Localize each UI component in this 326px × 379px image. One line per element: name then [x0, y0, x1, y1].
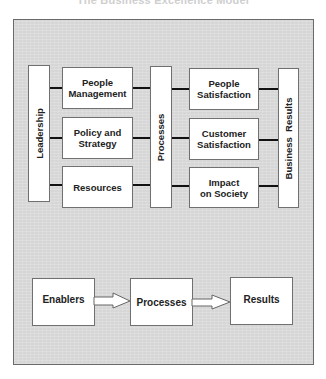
enabler-label-line2: Strategy: [74, 138, 122, 149]
result-label-line1: Customer: [197, 128, 251, 139]
connector-line: [172, 137, 189, 139]
result-label-line2: Satisfaction: [197, 89, 251, 100]
connector-line: [50, 184, 62, 186]
arrow-right-icon: [94, 293, 131, 309]
arrow-right-icon: [192, 295, 231, 311]
flow-label-enablers: Enablers: [42, 294, 84, 305]
flow-box-processes: Processes: [130, 278, 193, 326]
enabler-label-line2: Management: [68, 88, 126, 99]
connector-line: [133, 137, 150, 139]
result-box-customer-satisfaction: Customer Satisfaction: [189, 118, 259, 160]
business-results-label: Business Results: [283, 97, 294, 179]
flow-box-enablers: Enablers: [32, 278, 95, 326]
connector-line: [133, 87, 150, 89]
diagram-title: The Business Excellence Model: [0, 0, 326, 6]
leadership-box: Leadership: [28, 65, 50, 202]
processes-label: Processes: [156, 113, 167, 161]
business-results-box: Business Results: [278, 68, 299, 208]
result-label-line2: on Society: [200, 188, 248, 199]
result-label-line2: Satisfaction: [197, 139, 251, 150]
flow-box-results: Results: [230, 277, 293, 325]
connector-line: [259, 139, 278, 141]
result-label-line1: People: [197, 78, 251, 89]
connector-line: [172, 185, 189, 187]
connector-line: [50, 87, 62, 89]
processes-box: Processes: [150, 66, 172, 208]
connector-line: [172, 88, 189, 90]
connector-line: [259, 185, 278, 187]
enabler-label-line1: Resources: [73, 182, 122, 193]
flow-label-processes: Processes: [136, 297, 186, 308]
connector-line: [259, 88, 278, 90]
connector-line: [133, 184, 150, 186]
result-box-impact-on-society: Impact on Society: [189, 167, 259, 208]
enabler-label-line1: Policy and: [74, 127, 122, 138]
enabler-box-people-management: People Management: [62, 67, 133, 109]
enabler-box-policy-strategy: Policy and Strategy: [62, 117, 133, 159]
enabler-label-line1: People: [68, 77, 126, 88]
connector-line: [50, 137, 62, 139]
result-label-line1: Impact: [200, 177, 248, 188]
leadership-label: Leadership: [34, 108, 45, 159]
enabler-box-resources: Resources: [62, 166, 133, 208]
flow-label-results: Results: [243, 294, 279, 305]
result-box-people-satisfaction: People Satisfaction: [189, 68, 259, 110]
